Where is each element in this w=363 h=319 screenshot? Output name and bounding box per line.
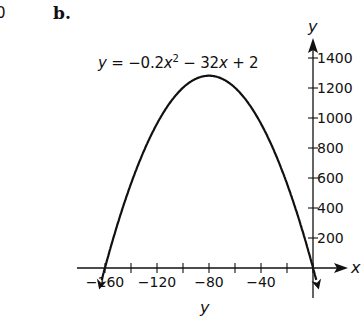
tick-labels: −160−120−80−40200400600800100012001400xy… — [86, 17, 361, 317]
parabola-curve — [97, 76, 321, 290]
x-axis-label: x — [350, 258, 361, 277]
y-tick-label: 1000 — [317, 110, 353, 126]
y-tick-label: 1400 — [317, 50, 353, 66]
x-tick-label: −40 — [246, 274, 276, 290]
bottom-y-label: y — [199, 298, 210, 317]
y-tick-label: 200 — [317, 230, 344, 246]
y-tick-label: 400 — [317, 200, 344, 216]
x-tick-label: −160 — [86, 274, 124, 290]
y-tick-label: 800 — [317, 140, 344, 156]
y-tick-label: 600 — [317, 170, 344, 186]
y-axis-label: y — [307, 17, 318, 36]
y-tick-label: 1200 — [317, 80, 353, 96]
parabola-plot: −160−120−80−40200400600800100012001400xy… — [0, 0, 363, 319]
x-tick-label: −120 — [138, 274, 176, 290]
x-tick-label: −80 — [194, 274, 224, 290]
parabola-line — [102, 76, 316, 280]
